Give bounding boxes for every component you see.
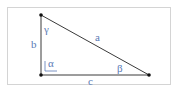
angle-gamma-label: γ xyxy=(44,24,49,35)
side-a-label: a xyxy=(95,32,100,43)
angle-alpha-label: α xyxy=(48,58,54,69)
triangle-edges xyxy=(41,15,149,75)
side-c-label: c xyxy=(88,76,93,87)
side-a-line xyxy=(41,15,149,75)
vertex-bottom-right xyxy=(147,73,151,77)
vertex-top xyxy=(39,13,43,17)
side-b-label: b xyxy=(31,39,37,50)
vertex-bottom-left xyxy=(39,73,43,77)
angle-beta-label: β xyxy=(117,63,123,74)
